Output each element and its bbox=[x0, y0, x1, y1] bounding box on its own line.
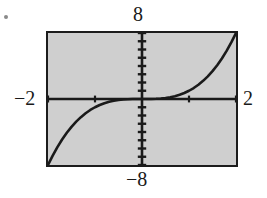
y-min-label: −8 bbox=[126, 169, 147, 189]
y-max-label: 8 bbox=[133, 4, 143, 24]
plot-canvas bbox=[48, 33, 236, 165]
plot-frame bbox=[46, 31, 238, 167]
scan-speck-artifact bbox=[4, 15, 8, 19]
graph-figure: 8 −8 −2 2 bbox=[0, 0, 267, 198]
x-min-label: −2 bbox=[14, 88, 35, 108]
x-max-label: 2 bbox=[243, 88, 253, 108]
